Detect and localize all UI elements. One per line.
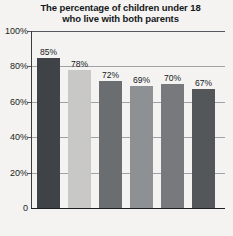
bar-2010[interactable]: 70%: [161, 84, 184, 208]
bar-2020[interactable]: 67%: [192, 89, 215, 208]
y-axis-label-80: 80%: [10, 61, 28, 71]
plot-top-border: [31, 31, 225, 32]
y-axis-label-20: 20%: [10, 168, 28, 178]
bar-1980[interactable]: 78%: [68, 70, 91, 208]
y-axis-line: [31, 31, 32, 209]
y-axis-label-60: 60%: [10, 97, 28, 107]
chart-title: The percentage of children under 18 who …: [18, 2, 223, 24]
bar-2000[interactable]: 69%: [130, 86, 153, 208]
bar-chart-figure: The percentage of children under 18 who …: [0, 0, 233, 236]
bar-value-2020: 67%: [195, 78, 212, 88]
bar-value-1970: 85%: [40, 47, 57, 57]
x-axis-line: [31, 208, 225, 209]
y-axis-label-40: 40%: [10, 132, 28, 142]
bar-value-2000: 69%: [133, 75, 150, 85]
chart-title-line-2: who live with both parents: [18, 13, 223, 24]
chart-title-line-1: The percentage of children under 18: [18, 2, 223, 13]
gridline-80: [31, 66, 225, 67]
bar-1990[interactable]: 72%: [99, 81, 122, 208]
y-axis-label-0: 0: [23, 203, 28, 213]
bar-value-1980: 78%: [71, 59, 88, 69]
y-axis-label-100: 100%: [5, 26, 28, 36]
plot-area: 85% 78% 72% 69% 70% 67% 1970 1980 1990 2…: [31, 31, 225, 208]
bar-value-1990: 72%: [102, 70, 119, 80]
bar-1970[interactable]: 85%: [37, 58, 60, 208]
bar-value-2010: 70%: [164, 73, 181, 83]
y-axis-labels: 100% 80% 60% 40% 20% 0: [0, 31, 28, 209]
